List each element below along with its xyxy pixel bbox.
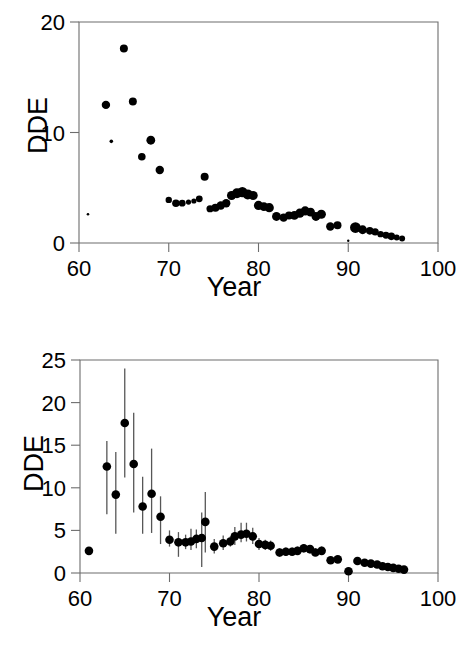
data-point [317,210,326,219]
data-point [138,502,147,511]
data-point [147,489,156,498]
data-point [156,166,164,174]
data-point [358,225,367,234]
data-point [172,199,180,207]
data-point [85,547,94,556]
data-point [272,212,281,221]
data-point [165,535,174,544]
data-point [344,567,353,576]
data-point [196,195,203,202]
data-point [138,153,146,161]
data-point [353,557,362,566]
data-point [249,191,258,200]
data-point [333,221,341,229]
data-point [156,512,165,521]
data-point [400,565,409,574]
data-point [146,136,155,145]
data-point [87,213,90,216]
data-point [179,200,186,207]
data-point [317,547,326,556]
x-axis-label-top: Year [0,272,468,303]
data-point [222,199,230,207]
chart-panel-top: 0102060708090100 DDE Year [0,0,468,330]
y-tick-label: 20 [42,391,66,416]
y-tick-label: 20 [41,10,65,35]
data-point [166,197,172,203]
y-tick-label: 0 [54,561,66,586]
data-point [333,555,342,564]
data-point [103,462,112,471]
y-tick-label: 5 [54,518,66,543]
data-point [120,419,129,428]
data-point [399,236,405,242]
figure-dde-year: 0102060708090100 DDE Year 05101520256070… [0,0,468,655]
data-point [197,534,206,543]
data-point [248,532,257,541]
data-point [191,198,196,203]
data-point [326,222,334,230]
x-axis-label-bottom: Year [0,602,468,633]
y-tick-label: 25 [42,348,66,373]
data-point [186,200,191,205]
data-point [210,542,219,551]
data-point [347,240,349,242]
data-point [129,98,137,106]
data-point [112,490,121,499]
data-point [129,460,138,469]
data-point [102,101,110,109]
y-tick-label: 0 [53,231,65,256]
data-point [201,518,210,527]
y-axis-label-top: DDE [23,86,54,166]
data-point [265,203,274,212]
data-point [219,539,228,548]
y-axis-label-bottom: DDE [19,424,50,504]
data-point [394,234,400,240]
data-point [110,140,114,144]
data-point [120,45,128,53]
data-point [266,541,275,550]
data-point [201,173,209,181]
